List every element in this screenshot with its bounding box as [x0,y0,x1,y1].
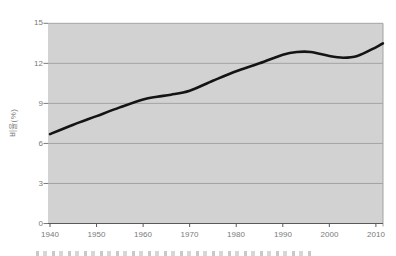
x-tick-label-1980: 1980 [221,230,251,240]
y-tick-label-0: 0 [13,219,43,229]
plot-area [0,0,396,256]
x-tick-label-2010: 2010 [361,230,391,240]
x-tick-label-1960: 1960 [128,230,158,240]
x-tick-label-2000: 2000 [315,230,345,240]
x-tick-label-1950: 1950 [82,230,112,240]
cropped-caption-strip [36,251,312,256]
y-tick-label-15: 15 [13,18,43,28]
x-tick-label-1990: 1990 [268,230,298,240]
x-tick-label-1940: 1940 [35,230,65,240]
y-tick-label-6: 6 [13,139,43,149]
plot-background [48,23,383,223]
x-tick-label-1970: 1970 [175,230,205,240]
y-tick-label-3: 3 [13,179,43,189]
y-tick-label-12: 12 [13,59,43,69]
y-tick-label-9: 9 [13,99,43,109]
chart-figure: 비율(%) 15 12 9 6 3 0 1940 1950 1960 1970 … [0,0,396,256]
